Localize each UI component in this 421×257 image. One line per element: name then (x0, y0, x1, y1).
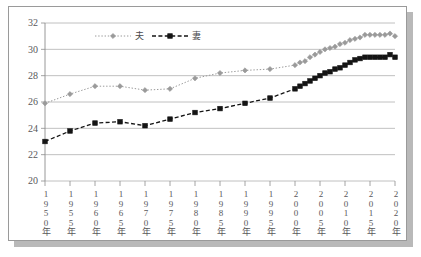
series-marker-husband (367, 32, 372, 37)
data-series-layer (42, 31, 397, 144)
y-axis-tick-label: 22 (28, 149, 38, 160)
legend-label: 夫 (133, 29, 146, 42)
series-marker-husband (307, 55, 312, 60)
x-tick-char: 年 (165, 228, 177, 238)
series-marker-wife (293, 87, 298, 92)
series-marker-wife (118, 119, 123, 124)
chart-frame: 20222426283032 1950年1955年1960年1965年1970年… (8, 6, 407, 241)
series-marker-husband (67, 92, 72, 97)
series-marker-wife (378, 55, 383, 60)
series-marker-wife (343, 63, 348, 68)
x-axis-tick-label: 1980年 (190, 190, 202, 238)
series-marker-wife (348, 60, 353, 65)
x-tick-char: 年 (265, 228, 277, 238)
series-marker-husband (392, 34, 397, 39)
x-tick-char: 年 (90, 228, 102, 238)
series-marker-husband (267, 66, 272, 71)
x-axis-tick-label: 2010年 (340, 190, 352, 238)
series-marker-wife (363, 55, 368, 60)
chart-legend: 夫妻 (95, 29, 203, 42)
x-axis-tick-label: 1990年 (240, 190, 252, 238)
series-marker-wife (308, 79, 313, 84)
series-marker-husband (342, 40, 347, 45)
chart-figure: 20222426283032 1950年1955年1960年1965年1970年… (0, 0, 421, 257)
series-marker-wife (168, 117, 173, 122)
x-tick-char: 年 (240, 228, 252, 238)
series-marker-husband (362, 32, 367, 37)
series-marker-wife (243, 101, 248, 106)
x-axis-tick-label: 1975年 (165, 190, 177, 238)
series-marker-wife (318, 73, 323, 78)
legend-marker (110, 33, 115, 38)
series-marker-wife (303, 81, 308, 86)
legend-swatch-husband (95, 31, 131, 41)
y-axis-tick-label: 24 (28, 123, 38, 134)
series-marker-husband (377, 32, 382, 37)
series-marker-wife (368, 55, 373, 60)
series-marker-husband (332, 44, 337, 49)
x-axis-ticks (45, 181, 395, 186)
legend-entry-husband[interactable]: 夫 (95, 29, 146, 42)
y-axis-tick-label: 26 (28, 96, 38, 107)
x-tick-char: 年 (340, 228, 352, 238)
x-tick-char: 年 (215, 228, 227, 238)
series-marker-wife (298, 84, 303, 89)
x-axis-tick-label: 2020年 (390, 190, 402, 238)
x-tick-char: 年 (140, 228, 152, 238)
series-marker-husband (167, 86, 172, 91)
x-axis-tick-label: 1950年 (40, 190, 52, 238)
x-axis-tick-label: 1995年 (265, 190, 277, 238)
x-axis-tick-label: 1985年 (215, 190, 227, 238)
x-tick-char: 年 (40, 228, 52, 238)
series-marker-wife (328, 69, 333, 74)
series-marker-husband (382, 32, 387, 37)
x-tick-char: 年 (365, 228, 377, 238)
series-marker-husband (92, 84, 97, 89)
x-axis-tick-label: 1965年 (115, 190, 127, 238)
series-marker-wife (68, 129, 73, 134)
legend-entry-wife[interactable]: 妻 (152, 29, 203, 42)
series-marker-husband (352, 36, 357, 41)
series-marker-wife (358, 56, 363, 61)
series-marker-husband (317, 49, 322, 54)
series-marker-wife (313, 76, 318, 81)
series-marker-wife (353, 58, 358, 63)
y-axis-tick-label: 32 (28, 17, 38, 28)
y-axis-tick-label: 28 (28, 70, 38, 81)
legend-swatch-wife (152, 31, 188, 41)
x-tick-char: 年 (290, 228, 302, 238)
x-tick-char: 年 (315, 228, 327, 238)
series-marker-husband (322, 47, 327, 52)
series-marker-husband (142, 88, 147, 93)
legend-marker (168, 33, 173, 38)
legend-label: 妻 (190, 29, 203, 42)
x-axis-tick-label: 1955年 (65, 190, 77, 238)
series-marker-wife (143, 123, 148, 128)
series-marker-husband (117, 84, 122, 89)
y-axis-tick-labels: 20222426283032 (28, 17, 38, 186)
series-marker-wife (373, 55, 378, 60)
series-marker-husband (312, 52, 317, 57)
series-marker-husband (357, 35, 362, 40)
series-marker-wife (388, 52, 393, 57)
series-marker-husband (297, 60, 302, 65)
x-axis-tick-label: 2000年 (290, 190, 302, 238)
y-axis-tick-label: 20 (28, 175, 38, 186)
series-marker-wife (338, 65, 343, 70)
series-marker-husband (292, 63, 297, 68)
series-marker-wife (323, 71, 328, 76)
x-tick-char: 年 (390, 228, 402, 238)
series-marker-husband (327, 45, 332, 50)
series-marker-wife (193, 110, 198, 115)
gridlines (41, 23, 395, 181)
x-axis-tick-label: 2005年 (315, 190, 327, 238)
series-marker-wife (393, 55, 398, 60)
y-axis-tick-label: 30 (28, 44, 38, 55)
series-marker-husband (242, 68, 247, 73)
series-marker-wife (268, 96, 273, 101)
series-marker-wife (93, 121, 98, 126)
series-marker-wife (43, 139, 48, 144)
x-axis-tick-label: 1960年 (90, 190, 102, 238)
series-marker-husband (347, 38, 352, 43)
series-marker-husband (42, 101, 47, 106)
